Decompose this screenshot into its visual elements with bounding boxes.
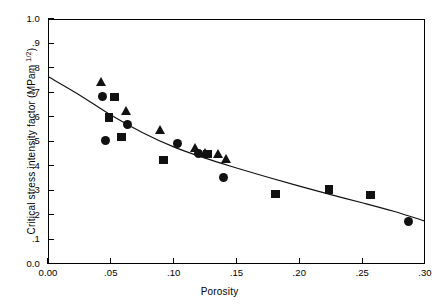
data-point-circle <box>123 120 132 129</box>
data-point-circle <box>194 149 203 158</box>
y-axis-title-close: ) <box>26 48 37 52</box>
data-point-square <box>117 133 126 142</box>
x-axis-title: Porosity <box>0 286 439 297</box>
y-axis-title-main: Critical stress intensity factor (MPam <box>26 62 37 235</box>
y-axis-title-exponent: 1/2 <box>25 51 32 61</box>
chart-figure: 0.0.1.2.3.4.5.6.7.8.91.00.00.05.10.15.20… <box>0 0 439 307</box>
data-point-square <box>110 93 119 102</box>
data-point-square <box>203 150 212 159</box>
data-point-square <box>271 190 280 199</box>
data-point-square <box>105 113 114 122</box>
data-point-circle <box>101 136 110 145</box>
data-point-square <box>366 191 375 200</box>
data-point-triangle <box>221 154 231 163</box>
data-point-triangle <box>121 106 131 115</box>
data-point-square <box>159 156 168 165</box>
data-point-square <box>325 185 334 194</box>
data-point-triangle <box>96 77 106 86</box>
data-point-triangle <box>155 125 165 134</box>
y-axis-title: Critical stress intensity factor (MPam 1… <box>25 17 37 265</box>
